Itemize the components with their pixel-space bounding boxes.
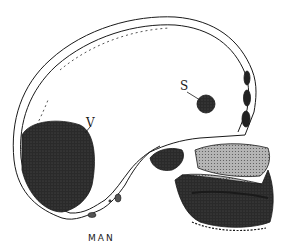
facial-skeleton [175,144,273,231]
skull-section-diagram [0,0,286,249]
figure-caption: MAN [88,234,115,243]
sphenoid-sinus [150,148,184,170]
ear-ossicles [88,194,121,218]
region-v [22,121,94,212]
frontal-sinuses [242,71,251,127]
label-s-leader [187,92,200,100]
label-v: V [86,117,95,129]
region-s [197,95,215,113]
label-s: S [180,80,188,92]
